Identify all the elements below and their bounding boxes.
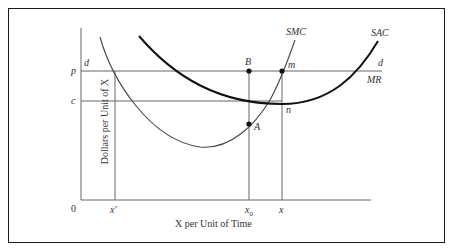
mr-label: MR <box>367 75 381 85</box>
demand-right-label: d <box>378 58 383 68</box>
x0-label: x0 <box>245 205 253 218</box>
point-a-label: A <box>254 122 260 132</box>
smc-curve <box>100 37 295 147</box>
point-a <box>246 121 251 126</box>
x-prime-label: x′ <box>110 205 117 215</box>
sac-curve <box>139 36 378 104</box>
price-p-label: p <box>71 66 76 76</box>
smc-label: SMC <box>286 27 306 37</box>
x-axis-label: X per Unit of Time <box>175 218 252 229</box>
point-b-label: B <box>245 57 251 67</box>
y-axis-label: Dollars per Unit of X <box>99 79 110 165</box>
x-label: x <box>279 205 283 215</box>
point-m <box>279 68 284 73</box>
demand-left-label: d <box>84 58 89 68</box>
point-b <box>246 68 251 73</box>
cost-c-label: c <box>71 96 75 106</box>
point-n-label: n <box>286 105 291 115</box>
point-m-label: m <box>288 60 295 70</box>
origin-label: 0 <box>71 204 76 214</box>
sac-label: SAC <box>371 28 389 38</box>
x0-subscript: 0 <box>249 210 253 218</box>
